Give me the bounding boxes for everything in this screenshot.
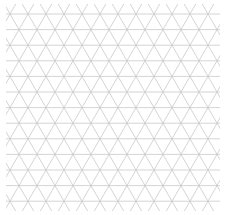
grid-line	[0, 0, 7, 215]
grid-line	[0, 0, 7, 215]
triangle-grid	[0, 0, 228, 215]
